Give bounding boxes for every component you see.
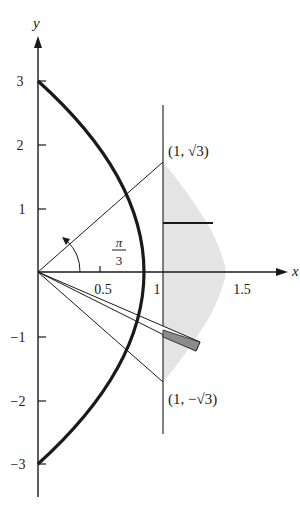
angle-arrow-icon bbox=[62, 237, 70, 245]
y-tick-labels: 3 2 1 −1 −2 −3 bbox=[11, 74, 26, 472]
angle-denominator: 3 bbox=[116, 253, 123, 268]
polar-region-diagram: y x 3 2 1 −1 −2 −3 0.5 1 1.5 π 3 (1, bbox=[0, 0, 300, 509]
angle-numerator: π bbox=[116, 235, 123, 250]
y-tick-label: −2 bbox=[11, 394, 26, 409]
x-tick-label: 0.5 bbox=[94, 282, 112, 297]
y-axis-label: y bbox=[31, 15, 40, 31]
x-axis-label: x bbox=[291, 263, 299, 279]
point-label-lower: (1, −√3) bbox=[168, 391, 217, 408]
y-tick-label: 2 bbox=[17, 138, 24, 153]
angle-arc bbox=[67, 241, 80, 272]
x-tick-label: 1 bbox=[154, 282, 161, 297]
y-tick-label: 1 bbox=[19, 202, 26, 217]
x-tick-label: 1.5 bbox=[233, 282, 251, 297]
x-axis-arrow-icon bbox=[276, 268, 288, 276]
point-label-upper: (1, √3) bbox=[168, 143, 209, 160]
y-tick-label: −1 bbox=[11, 330, 26, 345]
y-tick-label: −3 bbox=[11, 457, 26, 472]
y-axis-arrow-icon bbox=[34, 36, 42, 48]
y-tick-label: 3 bbox=[17, 74, 24, 89]
